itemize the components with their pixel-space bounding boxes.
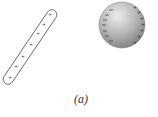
svg-text:+: + [14, 63, 18, 69]
svg-text:+: + [133, 39, 137, 45]
charge-induction-figure: + + + + + + + + + [0, 0, 158, 117]
svg-text:+: + [21, 53, 25, 59]
conducting-sphere: + + + + + + + [99, 2, 145, 48]
svg-text:+: + [8, 74, 12, 80]
svg-text:+: + [42, 21, 46, 27]
svg-text:+: + [29, 41, 33, 47]
svg-text:+: + [48, 11, 52, 17]
svg-text:+: + [140, 27, 144, 33]
svg-text:+: + [137, 33, 141, 39]
svg-text:+: + [36, 30, 40, 36]
figure-caption: (a) [66, 92, 96, 107]
charged-rod: + + + + + + + [1, 8, 58, 87]
